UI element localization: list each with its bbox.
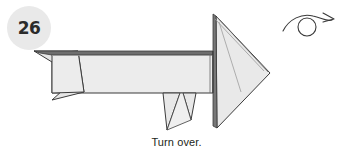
step-number: 26 xyxy=(7,6,51,50)
right-fin-main xyxy=(216,16,270,128)
top-folded-edge xyxy=(34,51,213,55)
caption-text: Turn over. xyxy=(0,136,353,148)
turn-over-arrow xyxy=(283,13,334,36)
right-fin-edge xyxy=(213,14,217,128)
origami-diagram xyxy=(0,0,353,158)
turn-over-arrowhead xyxy=(323,13,334,22)
left-tail-gusset xyxy=(52,51,84,93)
turn-over-circle xyxy=(298,18,316,36)
